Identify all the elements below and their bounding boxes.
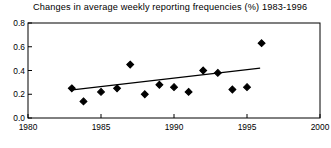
x-axis-tick-labels: 19801985199019952000	[19, 122, 330, 132]
plot-frame	[28, 23, 320, 118]
x-tick-label: 1995	[238, 122, 257, 132]
y-tick-label: 0.2	[13, 89, 25, 99]
scatter-plot: 0.00.20.40.60.8 19801985199019952000	[0, 0, 331, 148]
chart-figure: Changes in average weekly reporting freq…	[0, 0, 331, 148]
y-tick-label: 0.8	[13, 18, 25, 28]
y-axis-tick-labels: 0.00.20.40.60.8	[13, 18, 25, 123]
x-tick-label: 2000	[311, 122, 330, 132]
x-tick-label: 1980	[19, 122, 38, 132]
y-tick-label: 0.4	[13, 66, 25, 76]
x-tick-label: 1990	[165, 122, 184, 132]
x-tick-label: 1985	[92, 122, 111, 132]
y-tick-label: 0.6	[13, 42, 25, 52]
